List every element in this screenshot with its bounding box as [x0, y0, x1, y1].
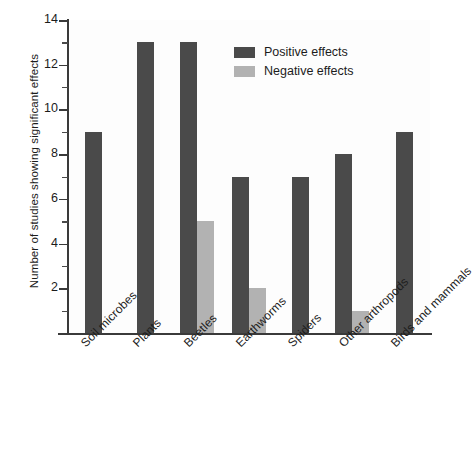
y-tick-major — [59, 244, 68, 246]
y-tick-label: 8 — [18, 146, 58, 160]
y-tick-label: 10 — [18, 101, 58, 115]
bar-positive-soil-microbes — [85, 132, 102, 333]
legend-label-negative: Negative effects — [264, 64, 353, 78]
y-tick-label: 4 — [18, 236, 58, 250]
y-tick-label: 14 — [18, 12, 58, 26]
legend-swatch-negative-icon — [234, 66, 255, 77]
y-tick-major — [59, 65, 68, 67]
legend-label-positive: Positive effects — [264, 45, 348, 59]
bar-positive-beetles — [180, 42, 197, 333]
bar-positive-other-arthropods — [335, 154, 352, 333]
y-tick-major — [59, 154, 68, 156]
y-tick-major — [59, 20, 68, 22]
y-tick-major — [59, 199, 68, 201]
y-tick-major — [59, 109, 68, 111]
bar-positive-spiders — [292, 177, 309, 334]
legend-swatch-positive-icon — [234, 47, 255, 58]
chart-legend: Positive effects Negative effects — [234, 45, 353, 83]
y-tick-label: 6 — [18, 191, 58, 205]
bar-positive-birds-and-mammals — [396, 132, 413, 333]
bar-positive-earthworms — [232, 177, 249, 334]
legend-item-negative-effects: Negative effects — [234, 64, 353, 78]
legend-item-positive-effects: Positive effects — [234, 45, 353, 59]
y-tick-label: 12 — [18, 57, 58, 71]
y-tick-label: 2 — [18, 280, 58, 294]
bar-positive-plants — [137, 42, 154, 333]
y-tick-major — [59, 288, 68, 290]
